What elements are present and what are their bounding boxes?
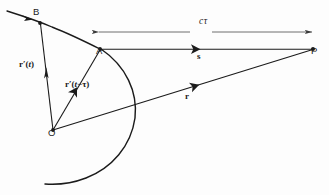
point-label-O: O <box>48 128 56 138</box>
vector-label-s: s <box>197 52 201 61</box>
point-label-P: P <box>311 46 318 56</box>
vector-r-arrowhead <box>189 80 201 92</box>
source-trajectory-curve <box>7 11 102 50</box>
vector-label-r: r <box>185 92 189 101</box>
vector-label-r-prime-t-minus-tau: r′(t−τ) <box>65 80 89 89</box>
trajectory-direction-arrow <box>22 15 33 21</box>
figure-canvas: B A O P r′(t) r′(t−τ) s r cτ <box>0 0 329 195</box>
point-dot-B <box>38 21 42 25</box>
dimension-label-c-tau: cτ <box>199 17 208 27</box>
point-label-B: B <box>33 7 40 17</box>
vector-r-prime-t <box>41 24 54 130</box>
vector-diagram-svg <box>0 0 329 195</box>
point-label-A: A <box>96 46 103 56</box>
retarded-sphere-arc <box>45 49 135 184</box>
vector-label-r-prime-t: r′(t) <box>19 60 34 69</box>
vector-r <box>53 50 312 130</box>
